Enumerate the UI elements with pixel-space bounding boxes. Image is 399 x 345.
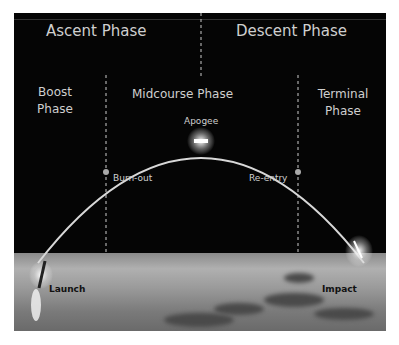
midcourse-phase-label: Midcourse Phase	[132, 86, 233, 103]
reentry-label: Re-entry	[249, 173, 287, 183]
ascent-phase-header: Ascent Phase	[46, 22, 147, 40]
boost-phase-label: BoostPhase	[32, 84, 78, 118]
burnout-label: Burn-out	[113, 173, 152, 183]
trajectory-arc	[38, 158, 364, 263]
trajectory-diagram: Ascent Phase Descent Phase BoostPhase Mi…	[14, 13, 386, 331]
reentry-marker	[295, 169, 301, 175]
terminal-phase-label: TerminalPhase	[310, 86, 376, 120]
launch-label: Launch	[49, 284, 85, 294]
impact-label: Impact	[322, 284, 357, 294]
apogee-label: Apogee	[184, 116, 218, 126]
burnout-marker	[103, 169, 109, 175]
descent-phase-header: Descent Phase	[236, 22, 347, 40]
